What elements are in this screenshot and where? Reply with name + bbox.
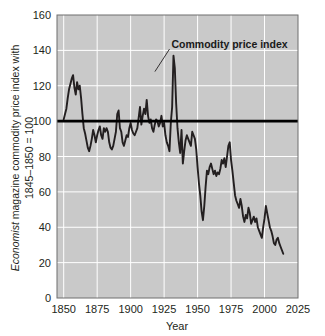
y-axis-tick-label: 100: [33, 115, 51, 127]
y-axis-tick-label: 140: [33, 44, 51, 56]
x-axis-tick-label: 1925: [152, 303, 176, 315]
x-axis-title: Year: [166, 320, 189, 332]
x-axis-tick-label: 1875: [85, 303, 109, 315]
y-axis-tick-label: 0: [45, 292, 51, 304]
chart-figure: 020406080100120140160 185018751900192519…: [0, 0, 325, 336]
series-annotation-label: Commodity price index: [172, 38, 288, 50]
svg-text:Economist magazine commodity p: Economist magazine commodity price index…: [9, 45, 21, 272]
x-axis-tick-label: 1900: [118, 303, 142, 315]
y-axis-title-italic-part: Economist: [9, 221, 21, 271]
y-axis-tick-label: 80: [39, 151, 51, 163]
x-axis-tick-label: 1950: [185, 303, 209, 315]
y-axis-tick-label: 40: [39, 221, 51, 233]
y-axis-tick-label: 160: [33, 9, 51, 21]
x-axis-tick-label: 2025: [286, 303, 310, 315]
x-axis-tick-label: 2000: [252, 303, 276, 315]
y-axis-title-line2: 1845–1850 = 100: [23, 117, 35, 199]
commodity-price-index-chart: 020406080100120140160 185018751900192519…: [0, 0, 325, 336]
y-axis-tick-label: 120: [33, 80, 51, 92]
x-axis-tick-label: 1850: [51, 303, 75, 315]
x-axis-tick-label: 1975: [219, 303, 243, 315]
y-axis-title-rest: magazine commodity price index with: [9, 45, 21, 223]
y-axis-tick-label: 60: [39, 186, 51, 198]
y-axis-tick-label: 20: [39, 257, 51, 269]
